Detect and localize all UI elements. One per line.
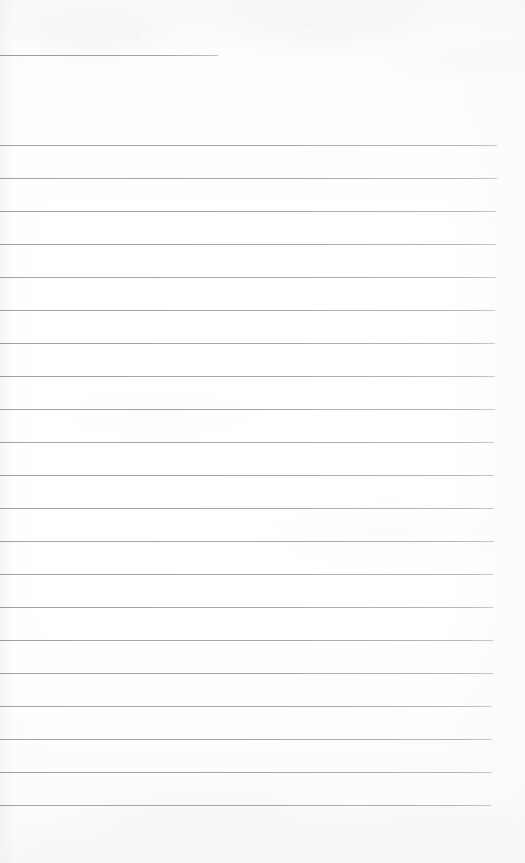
body-rule-20 bbox=[0, 772, 492, 773]
body-rule-8 bbox=[0, 376, 495, 377]
body-rule-13 bbox=[0, 541, 494, 542]
body-rule-19 bbox=[0, 739, 492, 740]
body-rule-18 bbox=[0, 706, 492, 707]
body-rule-15 bbox=[0, 607, 493, 608]
body-rule-5 bbox=[0, 277, 496, 278]
body-rule-1 bbox=[0, 145, 497, 146]
body-rule-3 bbox=[0, 211, 496, 212]
header-rule bbox=[0, 55, 218, 56]
scanned-page bbox=[0, 0, 525, 863]
body-rule-10 bbox=[0, 442, 494, 443]
body-rule-16 bbox=[0, 640, 493, 641]
body-rule-11 bbox=[0, 475, 494, 476]
body-rule-9 bbox=[0, 409, 495, 410]
body-rule-14 bbox=[0, 574, 493, 575]
body-rule-4 bbox=[0, 244, 496, 245]
body-rule-7 bbox=[0, 343, 495, 344]
body-rule-2 bbox=[0, 178, 497, 179]
body-rule-6 bbox=[0, 310, 495, 311]
body-rule-17 bbox=[0, 673, 493, 674]
ruled-lines-layer bbox=[0, 0, 525, 863]
body-rule-12 bbox=[0, 508, 494, 509]
body-rule-21 bbox=[0, 805, 491, 806]
